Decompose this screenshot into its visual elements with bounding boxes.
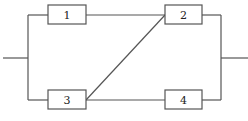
block-3-label: 3 [64,94,71,107]
block-1-label: 1 [64,9,71,22]
block-2-label: 2 [180,9,187,22]
block-3: 3 [48,90,86,109]
reliability-diagram: 1 2 3 4 [0,0,248,121]
block-2: 2 [165,5,202,24]
block-4-label: 4 [180,94,187,107]
block-4: 4 [165,90,202,109]
block-1: 1 [48,5,86,24]
wire-3-to-2-diagonal [86,15,165,100]
